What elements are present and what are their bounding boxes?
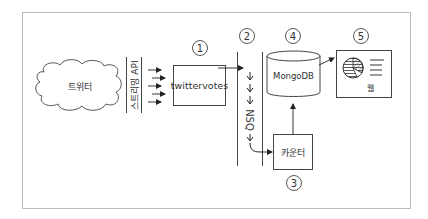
stream-arrows — [148, 70, 165, 102]
diagram-canvas: 트위터 스트리밍 API twittervotes 1 NSQ 2 카운터 3 … — [0, 0, 428, 219]
nsq-label: NSQ — [243, 106, 257, 134]
step-4-number: 4 — [285, 28, 301, 44]
step-1-number: 1 — [192, 40, 208, 56]
twittervotes-label: twittervotes — [173, 75, 226, 95]
twitter-label: 트위터 — [50, 76, 110, 96]
web-label: 웹 — [362, 80, 378, 94]
step-5-number: 5 — [353, 28, 369, 44]
streaming-api-label: 스트리밍 API — [127, 57, 141, 113]
counter-label: 카운터 — [273, 142, 313, 162]
pie-chart-icon — [343, 58, 363, 78]
mongodb-to-web-arrow — [319, 58, 334, 65]
step-3-number: 3 — [286, 175, 302, 191]
mongodb-label: MongoDB — [267, 68, 320, 84]
step-2-number: 2 — [239, 28, 255, 44]
